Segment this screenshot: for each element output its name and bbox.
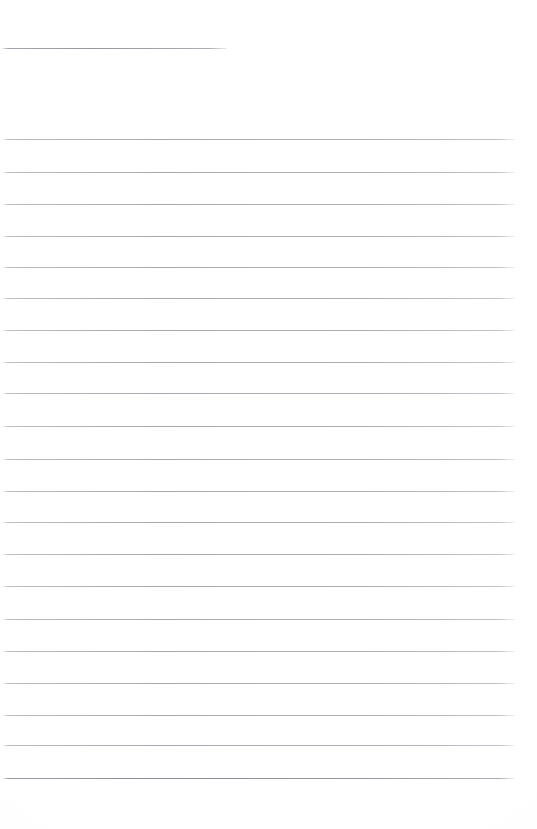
rule-line: [3, 683, 515, 684]
rule-line: [3, 330, 515, 331]
rule-line: [3, 236, 515, 237]
write-area[interactable]: [3, 685, 515, 715]
rule-line: [3, 586, 515, 587]
write-area[interactable]: [3, 493, 515, 522]
rule-line: [3, 139, 515, 140]
rule-line: [3, 459, 515, 460]
rule-line: [3, 619, 515, 620]
rule-line: [3, 204, 515, 205]
rule-line: [3, 298, 515, 299]
write-area[interactable]: [3, 588, 515, 619]
write-area[interactable]: [3, 428, 515, 459]
rule-line: [3, 426, 515, 427]
write-area[interactable]: [3, 747, 515, 778]
write-area[interactable]: [3, 238, 515, 267]
write-area[interactable]: [3, 621, 515, 651]
rule-line: [3, 651, 515, 652]
write-area[interactable]: [3, 332, 515, 362]
write-area[interactable]: [3, 206, 515, 236]
rule-line: [3, 267, 515, 268]
write-area[interactable]: [3, 300, 515, 330]
write-area[interactable]: [3, 717, 515, 745]
rule-line: [3, 522, 515, 523]
title-write-area[interactable]: [2, 26, 227, 47]
write-area[interactable]: [3, 364, 515, 393]
write-area[interactable]: [3, 524, 515, 554]
rule-line: [3, 778, 515, 779]
write-area[interactable]: [3, 461, 515, 491]
header-rule: [2, 48, 227, 49]
rule-line: [3, 715, 515, 716]
write-area[interactable]: [3, 395, 515, 426]
write-area[interactable]: [3, 653, 515, 683]
write-area[interactable]: [3, 556, 515, 586]
rule-line: [3, 393, 515, 394]
rule-line: [3, 362, 515, 363]
rule-line: [3, 554, 515, 555]
rule-line: [3, 172, 515, 173]
write-area[interactable]: [3, 141, 515, 172]
ruled-page: [0, 0, 537, 829]
write-area[interactable]: [3, 269, 515, 298]
rule-line: [3, 491, 515, 492]
write-area[interactable]: [3, 174, 515, 204]
rule-line: [3, 745, 515, 746]
write-area[interactable]: [3, 115, 515, 139]
